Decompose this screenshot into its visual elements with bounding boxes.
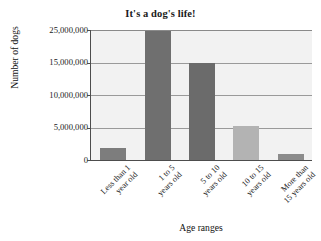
bar[interactable] xyxy=(145,31,171,160)
y-axis-tick-label: 5,000,000 xyxy=(2,122,88,132)
bar[interactable] xyxy=(100,148,126,160)
y-axis-tick-labels: 25,000,00015,000,00010,000,0005,000,0000 xyxy=(0,30,88,161)
bar-slot xyxy=(91,30,135,160)
bar-slot xyxy=(135,30,179,160)
y-axis-tick-label: 0 xyxy=(2,155,88,165)
chart-title: It's a dog's life! xyxy=(0,8,321,19)
bar[interactable] xyxy=(189,63,215,160)
bar[interactable] xyxy=(233,126,259,160)
x-axis-title: Age ranges xyxy=(90,222,312,233)
y-axis-tick-label: 10,000,000 xyxy=(2,90,88,100)
bar-series xyxy=(91,30,312,160)
x-axis-tick-labels: Less than 1year old1 to 5years old5 to 1… xyxy=(90,161,312,219)
bar-slot xyxy=(269,30,313,160)
bar[interactable] xyxy=(278,154,304,160)
plot-area xyxy=(90,30,312,161)
y-axis-tick-label: 15,000,000 xyxy=(2,57,88,67)
bar-slot xyxy=(224,30,268,160)
bar-slot xyxy=(180,30,224,160)
y-axis-tick-label: 25,000,000 xyxy=(2,25,88,35)
bar-chart-figure: It's a dog's life! Number of dogs 25,000… xyxy=(0,0,321,241)
